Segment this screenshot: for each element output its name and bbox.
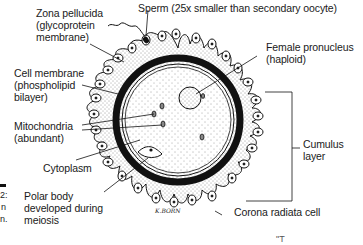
female-pronucleus (179, 87, 201, 109)
left-edge-fragment-2: n (1, 201, 6, 213)
left-edge-bar (0, 184, 6, 187)
label-female-pronucleus: Female pronucleus (haploid) (266, 41, 354, 65)
label-zona-pellucida: Zona pellucida (glycoprotein membrane) (36, 7, 103, 43)
label-cumulus-layer: Cumulus layer (303, 138, 344, 162)
left-edge-fragment-3: n. (0, 213, 8, 225)
artist-signature: K.BORN (155, 207, 181, 214)
label-mitochondria: Mitochondria (abundant) (14, 120, 73, 144)
label-polar-body: Polar body developed during meiosis (24, 190, 103, 226)
bottom-text-fragment: "T (276, 234, 285, 244)
label-corona-radiata: Corona radiata cell (234, 206, 320, 218)
label-cytoplasm: Cytoplasm (43, 162, 92, 174)
label-cell-membrane: Cell membrane (phospholipid bilayer) (14, 67, 84, 103)
left-edge-fragment-1: 2: (0, 189, 8, 201)
label-sperm: Sperm (25x smaller than secondary oocyte… (138, 2, 337, 14)
